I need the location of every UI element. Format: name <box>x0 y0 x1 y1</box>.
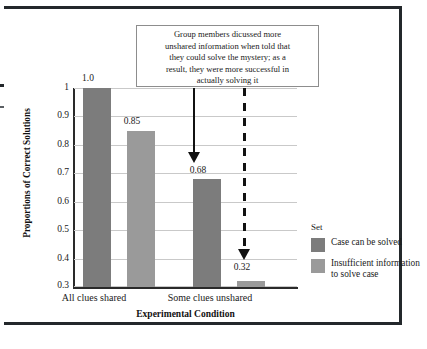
y-tick-0.6: 0.6 <box>57 196 69 206</box>
y-tick-0.9: 0.9 <box>57 110 69 120</box>
x-category-all-clues-shared: All clues shared <box>39 292 149 303</box>
legend-swatch-insufficient-information <box>311 259 325 273</box>
annotation-line-1: Group members dicussed more <box>141 29 314 41</box>
y-tick-0.7: 0.7 <box>57 167 69 177</box>
legend-swatch-case-can-be-solved <box>311 238 325 252</box>
x-axis-line <box>73 287 298 289</box>
legend-item-case-can-be-solved[interactable]: Case can be solved <box>311 237 423 252</box>
bar-value-0.68: 0.68 <box>173 165 223 175</box>
y-tick-0.4: 0.4 <box>57 253 69 263</box>
annotation-arrow-solid-head <box>188 152 200 163</box>
x-axis-title: Experimental Condition <box>74 309 297 319</box>
annotation-line-5: actually solving it <box>141 75 314 87</box>
y-tick-0.5: 0.5 <box>57 224 69 234</box>
annotation-line-3: they could solve the mystery; as a <box>141 52 314 64</box>
y-tick-0.8: 0.8 <box>57 139 69 149</box>
legend-title: Set <box>311 222 423 232</box>
legend: Set Case can be solved Insufficient info… <box>311 222 423 286</box>
y-tick-0.3: 0.3 <box>57 280 69 290</box>
legend-label-insufficient-information: Insufficient information to solve case <box>331 258 423 280</box>
bar-value-0.32: 0.32 <box>217 262 267 272</box>
y-tick-1: 1 <box>64 82 69 92</box>
x-category-some-clues-unshared: Some clues unshared <box>148 292 272 303</box>
annotation-callout-box: Group members dicussed more unshared inf… <box>136 25 319 87</box>
legend-item-insufficient-information[interactable]: Insufficient information to solve case <box>311 258 423 280</box>
bar-some-clues-unshared-insufficient-info[interactable] <box>237 281 265 287</box>
bar-all-clues-shared-insufficient-info[interactable] <box>127 131 155 287</box>
legend-label-case-can-be-solved: Case can be solved <box>331 237 402 248</box>
annotation-arrow-dashed-shaft <box>243 88 246 252</box>
y-axis-title: Proportions of Correct Solutions <box>22 83 32 263</box>
annotation-arrow-dashed-head <box>238 249 250 260</box>
annotation-line-4: result, they were more successful in <box>141 64 314 76</box>
annotation-line-2: unshared information when told that <box>141 41 314 53</box>
bar-value-1.0: 1.0 <box>63 73 113 83</box>
annotation-arrow-solid-shaft <box>193 88 195 155</box>
bar-value-0.85: 0.85 <box>107 116 157 126</box>
y-axis-ticks: 1 0.9 0.8 0.7 0.6 0.5 0.4 0.3 <box>38 88 69 287</box>
